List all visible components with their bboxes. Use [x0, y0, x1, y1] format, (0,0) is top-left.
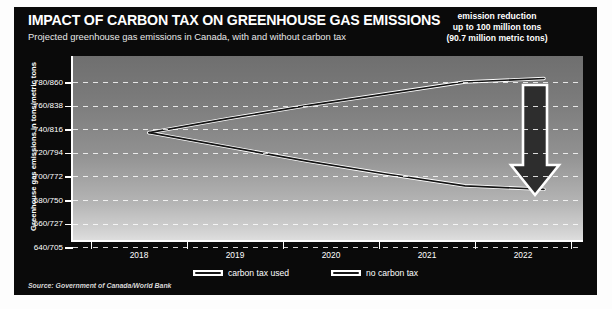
- callout-line-2: up to 100 million tons: [409, 22, 585, 33]
- y-axis-tick: [65, 82, 73, 84]
- emission-reduction-callout: emission reduction up to 100 million ton…: [409, 11, 585, 45]
- gridline: [73, 247, 583, 248]
- y-axis-tick-label: 780/860: [34, 78, 63, 87]
- plot-area: [73, 56, 583, 240]
- gridline: [73, 200, 583, 201]
- source-note: Source: Government of Canada/World Bank: [28, 282, 171, 289]
- y-axis-tick-label: 740/816: [34, 125, 63, 134]
- y-axis-tick: [65, 153, 73, 155]
- gridline: [73, 176, 583, 177]
- chart-panel: IMPACT OF CARBON TAX ON GREENHOUSE GAS E…: [14, 7, 597, 295]
- y-axis-tick: [65, 106, 73, 108]
- infographic-page: IMPACT OF CARBON TAX ON GREENHOUSE GAS E…: [0, 0, 612, 309]
- x-axis-tick: [187, 242, 188, 249]
- legend-label: carbon tax used: [228, 268, 289, 278]
- gridline: [73, 82, 583, 83]
- x-axis-tick: [475, 242, 476, 249]
- page-subtitle: Projected greenhouse gas emissions in Ca…: [28, 31, 346, 42]
- gridline: [73, 224, 583, 225]
- chart-legend: carbon tax used no carbon tax: [14, 268, 597, 278]
- y-axis-tick: [65, 200, 73, 202]
- y-axis-tick-label: 640/705: [34, 243, 63, 252]
- legend-item-carbon-tax-used: carbon tax used: [193, 268, 289, 278]
- x-axis-line: [71, 240, 583, 242]
- gridline: [73, 106, 583, 107]
- legend-item-no-carbon-tax: no carbon tax: [331, 268, 418, 278]
- x-axis-tick-label: 2019: [205, 250, 265, 260]
- page-title: IMPACT OF CARBON TAX ON GREENHOUSE GAS E…: [28, 12, 440, 28]
- callout-line-1: emission reduction: [409, 11, 585, 22]
- gridline: [73, 129, 583, 130]
- x-axis-tick-label: 2021: [397, 250, 457, 260]
- x-axis-tick-label: 2020: [301, 250, 361, 260]
- x-axis-tick: [571, 242, 572, 249]
- gridline: [73, 153, 583, 154]
- emission-reduction-arrow-icon: [73, 56, 583, 240]
- y-axis-tick-label: 660/727: [34, 219, 63, 228]
- legend-label: no carbon tax: [366, 268, 418, 278]
- x-axis-tick: [91, 242, 92, 249]
- y-axis-tick: [65, 129, 73, 131]
- y-axis-tick: [65, 224, 73, 226]
- y-axis-labels: 780/860760/838740/816720/794700/772680/7…: [14, 7, 63, 295]
- y-axis-tick-label: 720/794: [34, 148, 63, 157]
- y-axis-tick-label: 700/772: [34, 172, 63, 181]
- x-axis-tick-label: 2018: [109, 250, 169, 260]
- y-axis-tick-label: 680/750: [34, 196, 63, 205]
- callout-line-3: (90.7 million metric tons): [409, 33, 585, 44]
- y-axis-tick: [65, 247, 73, 249]
- legend-swatch-icon: [193, 269, 223, 277]
- x-axis-tick: [283, 242, 284, 249]
- y-axis-tick-label: 760/838: [34, 101, 63, 110]
- x-axis-tick-label: 2022: [493, 250, 553, 260]
- x-axis-tick: [379, 242, 380, 249]
- legend-swatch-icon: [331, 269, 361, 277]
- y-axis-tick: [65, 176, 73, 178]
